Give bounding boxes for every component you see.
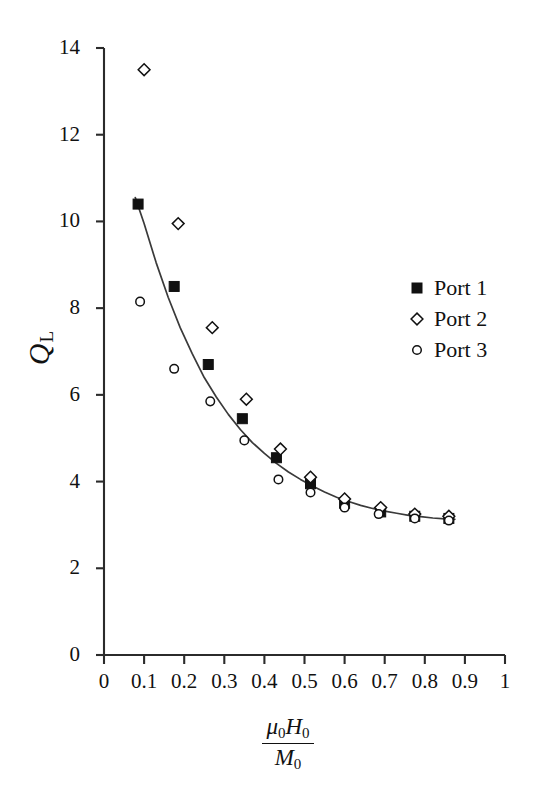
x-tick-label: 0.2 [171, 671, 197, 692]
x-tick-label: 0.3 [211, 671, 237, 692]
figure-container: 02468101214 00.10.20.30.40.50.60.70.80.9… [0, 0, 558, 809]
x-axis-fraction: μ0H0 M0 [262, 714, 313, 772]
y-axis-subscript: L [36, 331, 57, 343]
data-point-open-circle [374, 510, 383, 519]
chart-legend: Port 1Port 2Port 3 [406, 272, 487, 365]
data-point-open-circle [445, 516, 454, 525]
filled-square-glyph [412, 283, 422, 293]
filled-square-icon [406, 277, 428, 299]
data-point-open-circle [340, 503, 349, 512]
y-tick-label: 6 [34, 384, 80, 405]
x-tick-label: 0.7 [372, 671, 398, 692]
x-axis-title: μ0H0 M0 [233, 714, 343, 772]
open-circle-glyph [413, 345, 422, 354]
data-point-open-diamond [172, 218, 184, 230]
data-point-open-circle [240, 436, 249, 445]
x-tick-label: 0.9 [452, 671, 478, 692]
data-point-open-diamond [206, 322, 218, 334]
mu-symbol: μ [266, 714, 278, 739]
data-point-open-circle [411, 514, 420, 523]
x-tick-label: 0.4 [251, 671, 277, 692]
data-point-filled-square [237, 414, 247, 424]
y-tick-label: 0 [34, 644, 80, 665]
y-axis-title: QL [22, 318, 58, 378]
h-subscript: 0 [302, 725, 310, 741]
y-tick-label: 12 [34, 124, 80, 145]
data-point-open-circle [136, 297, 145, 306]
h-symbol: H [285, 714, 302, 739]
y-tick-label: 14 [34, 37, 80, 58]
open-diamond-glyph [411, 313, 423, 325]
data-point-open-circle [170, 365, 179, 374]
open-circle-icon [406, 339, 428, 361]
x-tick-label: 0.8 [412, 671, 438, 692]
legend-label: Port 3 [434, 339, 487, 361]
m-subscript: 0 [294, 755, 302, 771]
x-tick-label: 0.1 [131, 671, 157, 692]
legend-label: Port 1 [434, 277, 487, 299]
x-tick-label: 1 [500, 671, 511, 692]
x-axis-denominator: M0 [262, 744, 313, 773]
data-point-filled-square [203, 360, 213, 370]
y-axis-symbol: Q [22, 344, 55, 366]
data-point-open-circle [274, 475, 283, 484]
x-tick-label: 0.6 [331, 671, 357, 692]
data-point-open-diamond [240, 393, 252, 405]
data-point-open-diamond [138, 64, 150, 76]
y-tick-label: 2 [34, 557, 80, 578]
data-point-open-circle [206, 397, 215, 406]
y-tick-label: 8 [34, 297, 80, 318]
data-point-open-circle [306, 488, 315, 497]
legend-item-port-1[interactable]: Port 1 [406, 272, 487, 303]
legend-label: Port 2 [434, 308, 487, 330]
y-tick-label: 10 [34, 210, 80, 231]
x-tick-label: 0 [99, 671, 110, 692]
x-axis-numerator: μ0H0 [262, 714, 313, 744]
m-symbol: M [275, 745, 294, 770]
legend-item-port-3[interactable]: Port 3 [406, 334, 487, 365]
open-diamond-icon [406, 308, 428, 330]
data-point-filled-square [169, 281, 179, 291]
y-tick-label: 4 [34, 471, 80, 492]
x-tick-label: 0.5 [291, 671, 317, 692]
legend-item-port-2[interactable]: Port 2 [406, 303, 487, 334]
data-point-filled-square [133, 199, 143, 209]
